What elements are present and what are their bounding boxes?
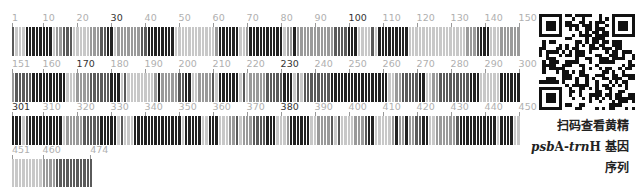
position-tick-label: 420 <box>417 102 435 112</box>
base-bar <box>517 116 520 145</box>
caption-line-2: psbA-trnH 基因 <box>531 137 629 154</box>
position-tick-label: 280 <box>451 59 469 69</box>
position-tick-label: 290 <box>485 59 503 69</box>
caption-line-3: 序列 <box>605 158 629 175</box>
gene-name-h: H <box>589 140 600 154</box>
position-tick-label: 150 <box>519 13 537 23</box>
position-tick-label: 350 <box>179 102 197 112</box>
gene-name-trn: trn <box>569 140 590 154</box>
qr-code[interactable] <box>539 14 635 110</box>
position-tick-label: 240 <box>315 59 333 69</box>
position-tick-label: 120 <box>417 13 435 23</box>
position-tick-label: 90 <box>315 13 327 23</box>
position-tick-label: 220 <box>247 59 265 69</box>
position-tick-label: 140 <box>485 13 503 23</box>
position-tick-label: 310 <box>43 102 61 112</box>
position-tick-label: 380 <box>281 102 299 112</box>
gene-name-a: A- <box>555 140 569 154</box>
position-ruler: 451460474 <box>12 145 522 159</box>
barcode-row: 3013103203303403503603703803904004104204… <box>12 102 522 145</box>
position-tick-label: 180 <box>111 59 129 69</box>
gene-name-psb: psb <box>531 140 555 154</box>
position-tick-label: 210 <box>213 59 231 69</box>
position-tick-label: 30 <box>111 13 123 23</box>
position-tick-label: 270 <box>417 59 435 69</box>
barcode-row: 451460474 <box>12 145 522 187</box>
base-bar <box>517 73 520 102</box>
position-ruler: 3013103203303403503603703803904004104204… <box>12 102 522 116</box>
base-bar <box>90 159 93 187</box>
position-tick-label: 370 <box>247 102 265 112</box>
position-tick-label: 100 <box>349 13 367 23</box>
position-tick-label: 170 <box>77 59 95 69</box>
position-tick-label: 40 <box>145 13 157 23</box>
base-bar <box>517 27 520 56</box>
position-tick-label: 160 <box>43 59 61 69</box>
qr-code-icon <box>539 14 635 110</box>
position-tick-label: 110 <box>383 13 401 23</box>
position-tick-label: 70 <box>247 13 259 23</box>
position-ruler: 1102030405060708090100110120130140150 <box>12 13 522 27</box>
position-tick-label: 400 <box>349 102 367 112</box>
position-tick-label: 1 <box>12 13 18 23</box>
position-tick-label: 451 <box>12 145 30 155</box>
position-tick-label: 20 <box>77 13 89 23</box>
position-tick-label: 440 <box>485 102 503 112</box>
position-tick-label: 250 <box>349 59 367 69</box>
barcode-bars <box>12 27 522 56</box>
gene-suffix: 基因 <box>601 140 629 154</box>
position-tick-label: 230 <box>281 59 299 69</box>
position-tick-label: 151 <box>12 59 30 69</box>
position-tick-label: 10 <box>43 13 55 23</box>
barcode-bars <box>12 159 522 187</box>
position-tick-label: 80 <box>281 13 293 23</box>
position-tick-label: 360 <box>213 102 231 112</box>
barcode-row: 1102030405060708090100110120130140150 <box>12 13 522 56</box>
caption-line-1: 扫码查看黄精 <box>557 116 629 133</box>
position-tick-label: 390 <box>315 102 333 112</box>
position-tick-label: 260 <box>383 59 401 69</box>
position-ruler: 1511601701801902002102202302402502602702… <box>12 59 522 73</box>
position-tick-label: 410 <box>383 102 401 112</box>
position-tick-label: 450 <box>519 102 537 112</box>
position-tick-label: 60 <box>213 13 225 23</box>
position-tick-label: 340 <box>145 102 163 112</box>
position-tick-label: 474 <box>90 145 108 155</box>
position-tick-label: 130 <box>451 13 469 23</box>
barcode-bars <box>12 73 522 102</box>
position-tick-label: 190 <box>145 59 163 69</box>
position-tick-label: 300 <box>519 59 537 69</box>
position-tick-label: 200 <box>179 59 197 69</box>
position-tick-label: 330 <box>111 102 129 112</box>
barcode-row: 1511601701801902002102202302402502602702… <box>12 59 522 102</box>
position-tick-label: 301 <box>12 102 30 112</box>
position-tick-label: 320 <box>77 102 95 112</box>
position-tick-label: 460 <box>43 145 61 155</box>
position-tick-label: 430 <box>451 102 469 112</box>
barcode-bars <box>12 116 522 145</box>
position-tick-label: 50 <box>179 13 191 23</box>
